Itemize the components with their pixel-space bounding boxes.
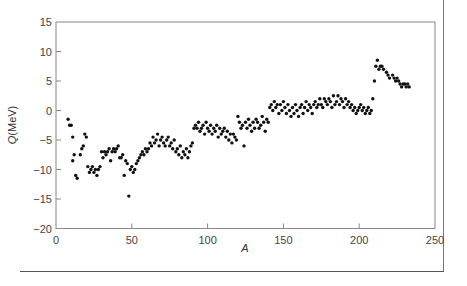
y-axis-title: Q(MeV) [6,106,18,145]
data-point [256,121,259,124]
data-point [109,159,112,162]
data-point [186,156,189,159]
data-point [242,144,245,147]
data-point [126,162,129,165]
data-point [88,171,91,174]
data-point [320,103,323,106]
data-point [245,127,248,130]
data-point [185,147,188,150]
data-point [182,150,185,153]
x-tick-label: 200 [350,234,368,246]
data-point [153,141,156,144]
data-point [71,159,74,162]
data-point [183,153,186,156]
data-point [405,85,408,88]
data-point [385,71,388,74]
data-point [248,124,251,127]
data-point [165,138,168,141]
data-point [250,130,253,133]
data-point [395,76,398,79]
data-point [341,100,344,103]
data-point [173,138,176,141]
data-point [292,112,295,115]
data-point [200,127,203,130]
data-point [300,103,303,106]
y-tick-label: 5 [46,75,52,87]
data-point [382,68,385,71]
data-point [277,112,280,115]
data-point [194,124,197,127]
data-point [294,103,297,106]
x-tick-label: 0 [53,234,59,246]
data-point [392,76,395,79]
data-point [350,103,353,106]
data-point [323,97,326,100]
data-point [156,132,159,135]
data-point [253,127,256,130]
data-point [262,121,265,124]
data-point [289,115,292,118]
x-tick-label: 100 [198,234,216,246]
data-point [192,127,195,130]
data-point [268,106,271,109]
data-point [398,82,401,85]
data-point [226,130,229,133]
data-point [104,153,107,156]
data-point [271,109,274,112]
data-point [142,153,145,156]
data-point [408,85,411,88]
data-point [297,115,300,118]
data-point [151,135,154,138]
data-point [335,100,338,103]
data-point [229,132,232,135]
data-point [189,144,192,147]
data-point [353,106,356,109]
data-point [191,141,194,144]
data-point [167,135,170,138]
data-point [326,103,329,106]
data-point [373,79,376,82]
data-point [120,156,123,159]
data-point [121,153,124,156]
data-point [400,85,403,88]
data-point [179,144,182,147]
data-point [318,97,321,100]
data-point [145,150,148,153]
data-point [321,106,324,109]
data-point [286,103,289,106]
data-point [132,171,135,174]
data-point [364,112,367,115]
data-point [329,100,332,103]
data-point [66,118,69,121]
data-point [232,132,235,135]
data-point [177,153,180,156]
data-point [85,135,88,138]
data-point [135,162,138,165]
data-point [362,106,365,109]
data-point [291,106,294,109]
data-point [215,124,218,127]
data-point [370,109,373,112]
data-point [386,73,389,76]
y-tick-label: 10 [40,46,52,58]
data-point [95,174,98,177]
data-point [97,168,100,171]
data-point [406,82,409,85]
data-point [94,168,97,171]
data-point [147,147,150,150]
data-point [212,127,215,130]
data-point [308,103,311,106]
x-tick-label: 250 [426,234,444,246]
x-tick-label: 150 [274,234,292,246]
data-point [197,121,200,124]
data-point [342,106,345,109]
data-point [79,153,82,156]
data-point [303,106,306,109]
data-point [309,106,312,109]
data-points [66,59,411,198]
data-point [295,109,298,112]
data-point [403,82,406,85]
data-point [91,165,94,168]
data-point [361,109,364,112]
data-point [327,97,330,100]
